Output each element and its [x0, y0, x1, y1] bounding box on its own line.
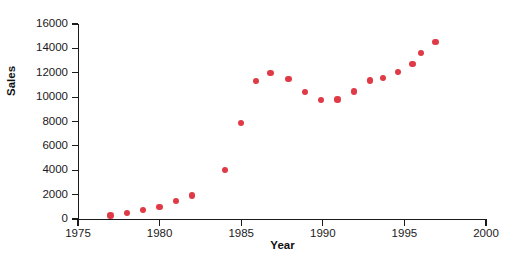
y-axis-tick — [72, 194, 78, 195]
x-axis-tick — [77, 220, 78, 226]
data-point — [432, 39, 438, 45]
x-axis-tick — [241, 220, 242, 226]
chart-figure: 0200040006000800010000120001400016000 19… — [0, 0, 516, 258]
y-axis-tick — [72, 48, 78, 49]
data-point — [156, 204, 162, 210]
x-axis-tick-label: 1980 — [130, 228, 190, 240]
x-axis-tick-label: 1975 — [48, 228, 108, 240]
scatter-plot-area: 0200040006000800010000120001400016000 19… — [0, 0, 516, 258]
y-axis-tick-label: 14000 — [6, 42, 68, 54]
x-axis-line — [78, 219, 487, 220]
y-axis-tick-label: 8000 — [6, 116, 68, 128]
y-axis-line — [78, 24, 79, 220]
data-point — [253, 78, 259, 84]
x-axis-tick-label: 1995 — [374, 228, 434, 240]
y-axis-tick-label: 0 — [6, 213, 68, 225]
data-point — [318, 97, 324, 103]
data-point — [395, 69, 401, 75]
data-point — [189, 192, 195, 198]
data-point — [285, 76, 291, 82]
data-point — [124, 210, 130, 216]
y-axis-tick-label: 16000 — [6, 18, 68, 30]
x-axis-tick-label: 2000 — [456, 228, 516, 240]
y-axis-title: Sales — [6, 66, 18, 96]
y-axis-tick — [72, 145, 78, 146]
data-point — [140, 207, 146, 213]
data-point — [418, 50, 424, 56]
x-axis-tick-label: 1985 — [211, 228, 271, 240]
x-axis-tick — [159, 220, 160, 226]
x-axis-tick — [485, 220, 486, 226]
data-point — [222, 167, 228, 173]
data-point — [351, 88, 357, 94]
y-axis-tick — [72, 170, 78, 171]
y-axis-tick — [72, 23, 78, 24]
y-axis-tick — [72, 121, 78, 122]
y-axis-tick — [72, 97, 78, 98]
data-point — [107, 212, 113, 218]
y-axis-tick-label: 2000 — [6, 189, 68, 201]
data-point — [367, 77, 373, 83]
x-axis-tick — [404, 220, 405, 226]
x-axis-tick — [322, 220, 323, 226]
data-point — [334, 96, 340, 102]
y-axis-tick-label: 6000 — [6, 140, 68, 152]
x-axis-title: Year — [78, 240, 487, 252]
data-point — [409, 61, 415, 67]
y-axis-tick — [72, 72, 78, 73]
data-point — [173, 198, 179, 204]
data-point — [302, 89, 308, 95]
x-axis-tick-label: 1990 — [293, 228, 353, 240]
data-point — [267, 70, 273, 76]
data-point — [238, 120, 244, 126]
data-point — [380, 75, 386, 81]
y-axis-tick-label: 4000 — [6, 164, 68, 176]
